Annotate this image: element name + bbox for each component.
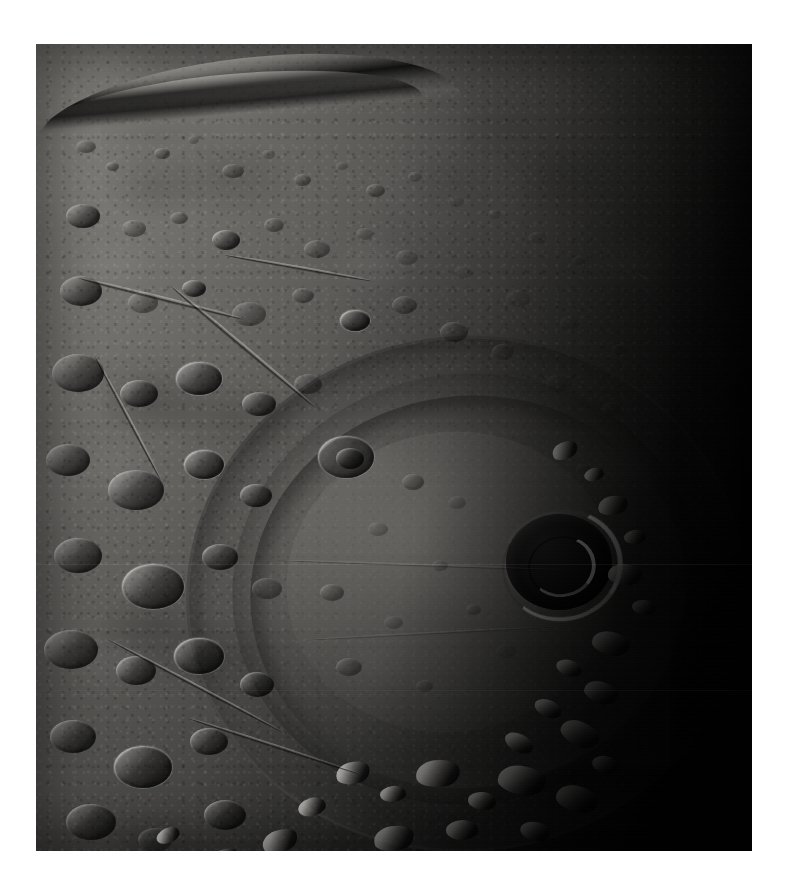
plate-vignette [36,44,752,851]
page-root [0,0,798,896]
planetary-surface-photograph [36,44,752,851]
